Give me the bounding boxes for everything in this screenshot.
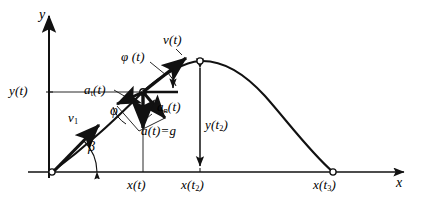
x-axis-label: x xyxy=(396,176,402,190)
point-markers xyxy=(49,58,336,175)
a-normal-paren: (t) xyxy=(168,99,181,114)
phi-of-t-leader xyxy=(150,62,166,75)
beta-label: β xyxy=(88,140,95,154)
initial-velocity-label: v1 xyxy=(68,111,78,126)
y-axis-label: y xyxy=(39,8,45,22)
a-normal-main: a xyxy=(157,99,164,114)
x-of-t3-main: x(t xyxy=(313,177,327,192)
v-of-t-leader xyxy=(176,49,182,55)
phi-label: φ xyxy=(110,104,118,118)
a-tangential-label: at(t) xyxy=(84,83,106,98)
a-tangential-paren: (t) xyxy=(93,82,106,97)
initial-velocity-subscript: 1 xyxy=(74,117,78,126)
x-of-t-label: x(t) xyxy=(127,178,146,191)
landing-marker xyxy=(330,169,336,175)
velocity-vector xyxy=(143,58,186,92)
a-total-label: a(t)=g xyxy=(141,124,176,137)
y-of-t2-paren: ) xyxy=(223,117,228,132)
phi-of-t-label: φ (t) xyxy=(121,50,145,63)
projectile-motion-figure: y x y(t) x(t) x(t2) x(t3) y(t2) v(t) φ (… xyxy=(0,0,430,211)
x-of-t2-paren: ) xyxy=(199,177,204,192)
a-tangential-main: a xyxy=(84,82,91,97)
y-of-t-label: y(t) xyxy=(9,84,28,97)
a-total-leader xyxy=(147,114,152,118)
y-of-t2-label: y(t2) xyxy=(205,118,228,133)
y-of-t2-main: y(t xyxy=(205,117,219,132)
x-of-t2-label: x(t2) xyxy=(181,178,204,193)
velocity-label: v(t) xyxy=(163,33,182,46)
x-of-t3-label: x(t3) xyxy=(313,178,336,193)
a-normal-label: an(t) xyxy=(157,100,181,115)
x-of-t3-paren: ) xyxy=(331,177,336,192)
a-tangential-leader xyxy=(114,90,126,97)
x-of-t2-main: x(t xyxy=(181,177,195,192)
apex-marker xyxy=(197,58,203,64)
diagram-canvas xyxy=(0,0,430,211)
